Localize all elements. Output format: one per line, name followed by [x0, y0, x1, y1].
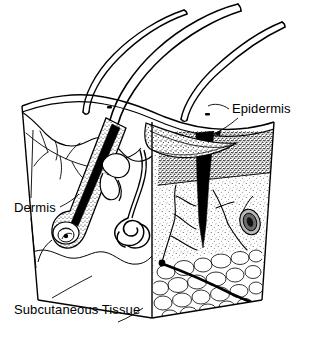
- epidermis-leader-line: [208, 104, 229, 109]
- vessel-end-dot: [159, 260, 166, 267]
- skin-diagram-figure: Epidermis Dermis Subcutaneous Tissue: [0, 0, 315, 361]
- epidermis-annotation[interactable]: Epidermis: [208, 101, 291, 136]
- subcutaneous-label: Subcutaneous Tissue: [14, 302, 140, 317]
- hair-bulb: [53, 222, 79, 244]
- hair-shaft-1: [83, 10, 187, 114]
- dermis-label: Dermis: [14, 200, 56, 215]
- skin-cross-section-illustration: Epidermis Dermis Subcutaneous Tissue: [0, 0, 315, 361]
- skin-pore-1: [107, 106, 112, 109]
- epidermis-label: Epidermis: [232, 101, 291, 116]
- hair-shaft-2: [110, 4, 241, 124]
- skin-pore-2: [205, 113, 210, 116]
